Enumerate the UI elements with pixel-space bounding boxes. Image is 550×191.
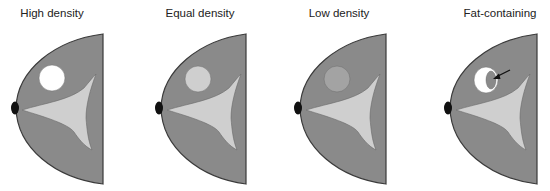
breast-diagram <box>0 0 140 191</box>
nipple-icon <box>155 102 163 115</box>
panel-high-density: High density <box>0 0 140 191</box>
lesion-low-density <box>324 66 350 92</box>
lesion-high-density <box>39 65 65 91</box>
breast-diagram <box>284 0 424 191</box>
panel-equal-density: Equal density <box>145 0 285 191</box>
nipple-icon <box>294 102 302 115</box>
panel-low-density: Low density <box>284 0 424 191</box>
breast-diagram <box>145 0 285 191</box>
breast-diagram <box>434 0 550 191</box>
panel-fat-containing: Fat-containing <box>434 0 550 191</box>
lesion-equal-density <box>185 66 211 92</box>
nipple-icon <box>444 102 452 115</box>
nipple-icon <box>11 102 19 115</box>
fat-component <box>486 71 496 89</box>
